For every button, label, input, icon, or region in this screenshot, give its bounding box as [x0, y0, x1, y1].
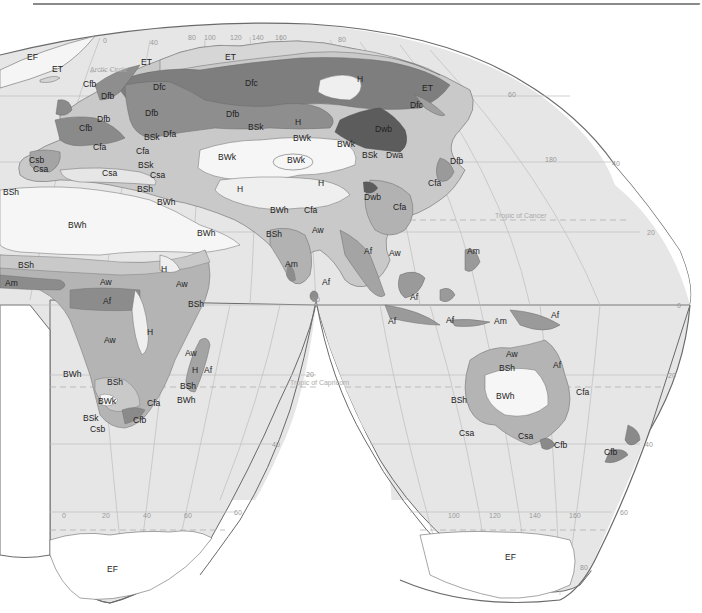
svg-text:Af: Af: [322, 277, 331, 287]
svg-text:BWh: BWh: [63, 369, 82, 379]
svg-text:Af: Af: [551, 310, 560, 320]
svg-text:Cfa: Cfa: [93, 142, 107, 152]
svg-text:180: 180: [545, 156, 557, 163]
svg-text:20: 20: [102, 512, 110, 519]
svg-text:140: 140: [252, 34, 264, 41]
svg-text:Am: Am: [467, 246, 480, 256]
svg-text:20: 20: [668, 372, 676, 379]
svg-text:ET: ET: [52, 64, 63, 74]
region-antarctica-left: [50, 531, 212, 600]
svg-text:Csa: Csa: [518, 431, 533, 441]
svg-text:Dwb: Dwb: [364, 192, 381, 202]
svg-text:ET: ET: [225, 52, 236, 62]
svg-text:H: H: [161, 264, 167, 274]
svg-text:BSh: BSh: [137, 184, 153, 194]
svg-text:Am: Am: [285, 259, 298, 269]
svg-text:40: 40: [272, 441, 280, 448]
svg-text:Dwa: Dwa: [386, 150, 403, 160]
svg-text:0: 0: [62, 512, 66, 519]
svg-text:BSh: BSh: [107, 377, 123, 387]
svg-text:Af: Af: [364, 246, 373, 256]
svg-text:40: 40: [612, 160, 620, 167]
svg-text:BSk: BSk: [248, 122, 264, 132]
svg-text:60: 60: [184, 512, 192, 519]
svg-text:40: 40: [150, 39, 158, 46]
svg-text:160: 160: [569, 512, 581, 519]
svg-text:Aw: Aw: [104, 335, 117, 345]
svg-text:BWh: BWh: [177, 395, 196, 405]
svg-text:BWh: BWh: [157, 197, 176, 207]
svg-text:Cfa: Cfa: [304, 205, 318, 215]
svg-text:Cfb: Cfb: [604, 447, 618, 457]
svg-text:Cfa: Cfa: [428, 178, 442, 188]
svg-text:H: H: [192, 365, 198, 375]
svg-text:BSk: BSk: [144, 132, 160, 142]
svg-text:H: H: [147, 327, 153, 337]
svg-text:BWk: BWk: [293, 133, 312, 143]
svg-text:Dwb: Dwb: [375, 124, 392, 134]
svg-text:Aw: Aw: [176, 279, 189, 289]
svg-text:Dfc: Dfc: [153, 82, 167, 92]
svg-text:Aw: Aw: [389, 248, 402, 258]
svg-text:Aw: Aw: [185, 348, 198, 358]
region-antarctica-right: [420, 531, 575, 598]
svg-text:BWk: BWk: [287, 155, 306, 165]
svg-text:60: 60: [620, 509, 628, 516]
svg-text:EF: EF: [27, 52, 38, 62]
svg-text:EF: EF: [107, 564, 118, 574]
svg-text:100: 100: [204, 34, 216, 41]
svg-text:Af: Af: [410, 292, 419, 302]
svg-text:H: H: [295, 117, 301, 127]
svg-text:BSh: BSh: [180, 381, 196, 391]
svg-text:Dfb: Dfb: [101, 91, 115, 101]
svg-text:Dfc: Dfc: [245, 78, 259, 88]
svg-text:Dfb: Dfb: [97, 114, 111, 124]
svg-text:20: 20: [647, 229, 655, 236]
svg-text:Cfb: Cfb: [133, 415, 147, 425]
svg-text:BSh: BSh: [3, 187, 19, 197]
svg-text:140: 140: [529, 512, 541, 519]
svg-text:Aw: Aw: [506, 349, 519, 359]
svg-text:120: 120: [230, 34, 242, 41]
svg-text:BSk: BSk: [362, 150, 378, 160]
svg-text:60: 60: [508, 91, 516, 98]
svg-text:0: 0: [677, 302, 681, 309]
tropic-of-cancer-label: Tropic of Cancer: [495, 212, 547, 220]
svg-text:Af: Af: [103, 296, 112, 306]
svg-text:Af: Af: [388, 316, 397, 326]
svg-text:Csa: Csa: [150, 170, 165, 180]
svg-text:BWk: BWk: [337, 139, 356, 149]
svg-text:60: 60: [234, 509, 242, 516]
svg-text:BWh: BWh: [270, 205, 289, 215]
svg-text:120: 120: [489, 512, 501, 519]
svg-text:BWh: BWh: [68, 220, 87, 230]
svg-text:H: H: [318, 178, 324, 188]
svg-text:Cfa: Cfa: [393, 202, 407, 212]
svg-text:100: 100: [448, 512, 460, 519]
svg-text:BWh: BWh: [197, 228, 216, 238]
svg-text:Cfa: Cfa: [576, 387, 590, 397]
svg-text:BSh: BSh: [499, 363, 515, 373]
svg-text:Aw: Aw: [312, 225, 325, 235]
svg-text:BSh: BSh: [188, 299, 204, 309]
svg-text:80: 80: [188, 34, 196, 41]
svg-text:Cfb: Cfb: [83, 79, 97, 89]
interruption-left: [0, 305, 50, 558]
svg-text:BWh: BWh: [496, 391, 515, 401]
svg-text:BSk: BSk: [83, 413, 99, 423]
svg-text:Dfa: Dfa: [163, 129, 177, 139]
svg-text:H: H: [357, 74, 363, 84]
svg-text:160: 160: [275, 34, 287, 41]
svg-text:BSh: BSh: [266, 229, 282, 239]
svg-text:Dfb: Dfb: [226, 109, 240, 119]
svg-text:BWk: BWk: [218, 152, 237, 162]
svg-text:40: 40: [143, 512, 151, 519]
svg-text:Am: Am: [5, 278, 18, 288]
svg-text:EF: EF: [505, 552, 516, 562]
svg-text:40: 40: [645, 441, 653, 448]
svg-text:Af: Af: [553, 360, 562, 370]
svg-text:80: 80: [580, 564, 588, 571]
climate-map: Arctic Circle Tropic of Cancer Tropic of…: [0, 0, 702, 613]
svg-text:Cfb: Cfb: [79, 123, 93, 133]
svg-text:Dfb: Dfb: [145, 108, 159, 118]
